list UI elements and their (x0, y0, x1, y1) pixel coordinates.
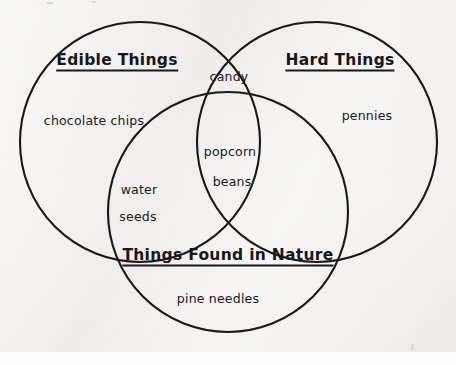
worksheet-page: Edible Things Hard Things Things Found i… (0, 0, 456, 365)
venn-item-water: water (121, 182, 158, 197)
venn-item-candy: candy (210, 69, 249, 84)
venn-item-popcorn: popcorn (204, 144, 256, 159)
venn-item-seeds: seeds (119, 209, 156, 224)
set-title-hard-things: Hard Things (285, 51, 394, 72)
set-title-things-found-in-nature: Things Found in Nature (122, 246, 333, 267)
venn-item-chocolate-chips: chocolate chips (44, 113, 144, 128)
venn-item-pennies: pennies (342, 108, 393, 123)
venn-item-beans: beans (213, 174, 252, 189)
set-title-edible-things: Edible Things (56, 51, 178, 72)
venn-item-pine-needles: pine needles (177, 291, 259, 306)
